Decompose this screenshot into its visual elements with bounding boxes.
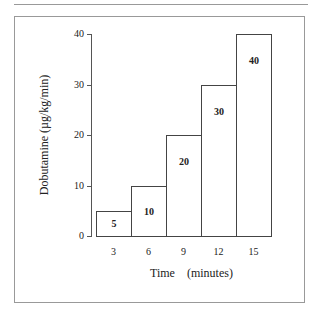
bar: 10 xyxy=(131,186,167,238)
bar-value-label: 10 xyxy=(132,206,166,217)
bar: 40 xyxy=(236,34,272,237)
bar: 20 xyxy=(166,135,202,237)
x-tick-label: 12 xyxy=(204,246,234,257)
bar: 5 xyxy=(96,211,132,237)
bar-value-label: 5 xyxy=(97,218,131,229)
y-tick-mark xyxy=(87,236,91,237)
y-tick-label: 20 xyxy=(56,130,84,140)
y-tick-label: 10 xyxy=(56,181,84,191)
y-axis-label: Dobutamine (µg/kg/min) xyxy=(37,75,52,196)
bar-value-label: 20 xyxy=(167,156,201,167)
y-tick-mark xyxy=(87,135,91,136)
x-axis-label: Time (minutes) xyxy=(150,266,233,281)
y-tick-mark xyxy=(87,186,91,187)
y-tick-label: 30 xyxy=(56,80,84,90)
x-tick-label: 6 xyxy=(134,246,164,257)
bar: 30 xyxy=(201,85,237,238)
bar-value-label: 40 xyxy=(237,55,271,66)
y-axis xyxy=(91,34,92,237)
y-tick-label: 0 xyxy=(56,231,84,241)
y-tick-mark xyxy=(87,85,91,86)
y-tick-mark xyxy=(87,34,91,35)
x-tick-label: 9 xyxy=(169,246,199,257)
x-tick-label: 3 xyxy=(99,246,129,257)
y-tick-label: 40 xyxy=(56,29,84,39)
bar-value-label: 30 xyxy=(202,106,236,117)
x-tick-label: 15 xyxy=(239,246,269,257)
top-rule xyxy=(14,4,308,5)
